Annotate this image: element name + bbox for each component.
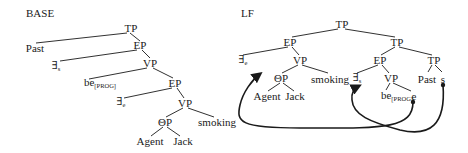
lf-e-node: e	[412, 91, 417, 102]
base-tp-node: TP	[125, 23, 138, 34]
lf-vp-left-node: VP	[293, 55, 307, 66]
be-text: be	[84, 76, 94, 88]
lf-tp-low-node: TP	[428, 55, 441, 66]
exists-subscript: e	[123, 101, 126, 108]
lf-smoking-node: smoking	[311, 74, 349, 85]
base-ep-node: EP	[134, 40, 147, 51]
base-theta-p-node: ΘP	[158, 117, 172, 128]
base-agent-node: Agent	[137, 136, 164, 147]
exists-subscript: s	[58, 65, 61, 72]
base-past-node: Past	[26, 43, 44, 54]
lf-be-prog-node: be[PROG]	[381, 90, 413, 104]
lf-tp-right-node: TP	[391, 37, 404, 48]
lf-panel-title: LF	[241, 8, 254, 19]
lf-s-node: s	[441, 74, 445, 85]
base-exists-e-node: ∃e	[117, 96, 126, 110]
lf-tp-root-node: TP	[336, 19, 349, 30]
exists-subscript: s	[359, 77, 362, 84]
base-ep-lower-node: EP	[169, 78, 182, 89]
lf-ep-mid-node: EP	[374, 55, 387, 66]
lf-jack-node: Jack	[285, 91, 305, 102]
lf-theta-p-node: ΘP	[274, 73, 288, 84]
syntax-tree-diagram: BASE TP Past EP ∃s VP be[PROG] EP ∃e VP …	[0, 0, 468, 153]
base-exists-s-node: ∃s	[52, 60, 61, 74]
lf-ep-left-node: EP	[284, 37, 297, 48]
prog-subscript: [PROG]	[94, 82, 116, 89]
lf-past-node: Past	[418, 74, 436, 85]
exists-subscript: e	[245, 59, 248, 66]
base-panel-title: BASE	[26, 8, 54, 19]
base-be-prog-node: be[PROG]	[84, 77, 116, 91]
base-vp-lower-node: VP	[178, 98, 192, 109]
lf-exists-s-node: ∃s	[353, 72, 362, 86]
be-text: be	[381, 89, 391, 101]
lf-vp-mid-node: VP	[384, 73, 398, 84]
base-smoking-node: smoking	[198, 117, 236, 128]
base-vp-node: VP	[143, 58, 157, 69]
lf-exists-e-node: ∃e	[239, 54, 248, 68]
prog-subscript: [PROG]	[391, 95, 413, 102]
base-jack-node: Jack	[173, 136, 193, 147]
lf-agent-node: Agent	[254, 91, 281, 102]
